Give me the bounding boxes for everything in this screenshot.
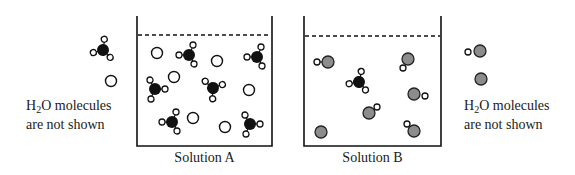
legend-black-molecule-icon [87,35,114,65]
legend-grey-circle-icon [475,73,487,85]
legend-right-particles [465,45,487,85]
particles-a [147,42,265,137]
legend-left-particles [87,35,116,86]
container-solution-b [304,16,441,146]
particles-b [314,53,428,138]
legend-left-line2: are not shown [26,117,112,133]
container-solution-a [137,16,272,146]
legend-grey-molecule-icon [474,45,486,57]
legend-right-line2: are not shown [464,117,550,133]
legend-left-text: H2O molecules are not shown [26,98,112,133]
caption-solution-a: Solution A [137,150,272,166]
legend-left-line1: H2O molecules [26,98,112,114]
legend-open-circle-icon [106,76,117,87]
caption-solution-b: Solution B [304,150,441,166]
diagram-canvas [0,0,575,175]
legend-right-text: H2O molecules are not shown [464,98,550,133]
legend-right-line1: H2O molecules [464,98,550,114]
